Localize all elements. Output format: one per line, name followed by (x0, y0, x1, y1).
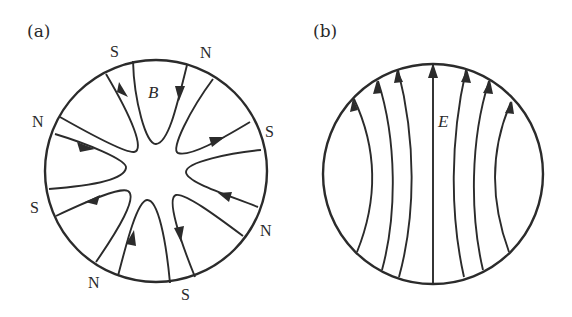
field-line-left (49, 134, 126, 189)
e-field-line-1 (354, 99, 372, 252)
pole-label-n-3: N (260, 222, 272, 239)
e-field-line-2 (378, 81, 393, 270)
pole-label-s-3: S (30, 199, 39, 216)
arrowhead-upper-right-icon (209, 137, 225, 147)
e-field-line-5 (454, 70, 466, 277)
arrowhead-right-icon (218, 192, 232, 202)
arrowhead-lower-right-icon (174, 226, 184, 242)
panel-b-label: (b) (313, 21, 337, 41)
panel-a: (a) (27, 21, 274, 303)
field-symbol-e: E (437, 112, 449, 131)
arrowhead-lower-left-icon (85, 195, 100, 205)
e-field-line-7 (495, 102, 511, 252)
pole-label-s-4: S (181, 286, 190, 303)
figure-canvas: (a) (0, 0, 572, 317)
field-symbol-b: B (148, 83, 159, 102)
arrowhead-top-icon (175, 86, 185, 101)
pole-label-s-1: S (110, 43, 119, 60)
field-line-top (133, 61, 187, 144)
pole-label-n-4: N (88, 274, 100, 291)
pole-label-s-2: S (265, 123, 274, 140)
field-line-lower-right (173, 195, 243, 277)
panel-b: (b) E (313, 21, 543, 284)
panel-a-label: (a) (27, 21, 50, 41)
field-lines-figure: (a) (0, 0, 572, 317)
e-field-line-3 (398, 70, 412, 277)
pole-label-n-2: N (32, 113, 44, 130)
pole-label-n-1: N (200, 44, 212, 61)
field-line-right (186, 150, 261, 207)
e-arrowhead-7-icon (505, 101, 514, 114)
e-field-line-6 (474, 81, 489, 270)
